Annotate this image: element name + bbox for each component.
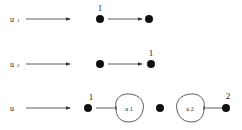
row-3-right-label: 2: [226, 91, 231, 101]
row-1-node-b: [145, 15, 153, 23]
diagram: u 1 1 u 2 1 u 1 u 1 u 2 2: [0, 0, 242, 130]
row-3-left-label: 1: [89, 92, 94, 102]
row-2-label: u: [10, 60, 14, 69]
row-1-label: u: [10, 15, 14, 24]
row-3-node-right: [222, 104, 230, 112]
row-2-top-label: 1: [149, 48, 154, 58]
row-2: u 2 1: [10, 48, 155, 69]
blob-u1-label: u 1: [125, 106, 133, 112]
row-2-node-a: [96, 60, 104, 68]
row-1-top-label: 1: [98, 3, 103, 13]
row-1: u 1 1: [10, 3, 153, 24]
row-3: u 1 u 1 u 2 2: [10, 91, 230, 122]
row-3-node-left: [84, 104, 92, 112]
blob-u2-label: u 2: [186, 106, 194, 112]
row-1-node-a: [96, 15, 104, 23]
row-3-node-middle: [156, 104, 164, 112]
row-1-sub: 1: [17, 18, 20, 23]
row-3-label: u: [10, 104, 14, 113]
row-2-node-b: [147, 60, 155, 68]
row-2-sub: 2: [17, 63, 20, 68]
